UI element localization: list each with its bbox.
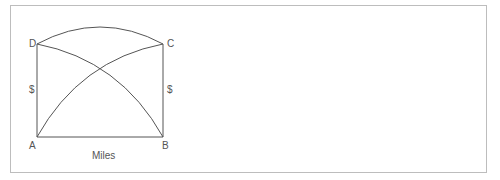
point-label-d: D [29, 39, 36, 49]
point-label-b: B [162, 141, 169, 151]
left-axis-label: $ [29, 85, 35, 95]
point-label-c: C [167, 39, 174, 49]
curve-d-b [37, 44, 163, 137]
curve-a-c [37, 44, 163, 137]
arc-d-c [37, 27, 163, 44]
right-axis-label: $ [167, 85, 173, 95]
point-label-a: A [29, 141, 36, 151]
bottom-axis-label: Miles [92, 151, 115, 161]
diagram-canvas [0, 0, 500, 180]
